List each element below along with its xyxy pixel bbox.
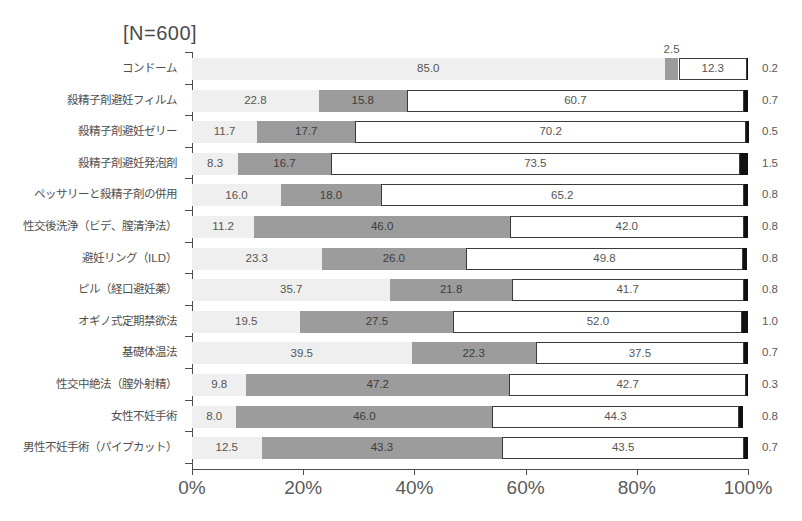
bar-segment-segment-3: 42.7 bbox=[509, 374, 746, 396]
bar-value-label-segment-4: 1.0 bbox=[762, 315, 778, 327]
bar-segment-segment-2: 18.0 bbox=[281, 184, 381, 206]
x-tick-0% bbox=[192, 469, 193, 475]
bar-row: 11.717.770.20.5 bbox=[192, 121, 748, 143]
bar-row: 8.046.044.30.8 bbox=[192, 406, 748, 428]
bar-row: 9.847.242.70.3 bbox=[192, 374, 748, 396]
x-tick-label-100%: 100% bbox=[724, 477, 773, 499]
bar-value-label-segment-4: 0.8 bbox=[762, 252, 778, 264]
category-label-8: オギノ式定期禁欲法 bbox=[78, 316, 177, 328]
y-tick-12 bbox=[185, 431, 192, 432]
y-tick-3 bbox=[185, 147, 192, 148]
x-tick-20% bbox=[303, 469, 304, 475]
bar-value-label-segment-1: 39.5 bbox=[291, 348, 313, 360]
bar-segment-segment-4 bbox=[744, 437, 748, 459]
bar-value-label-segment-2: 43.3 bbox=[371, 442, 393, 454]
bar-segment-segment-1: 35.7 bbox=[192, 279, 390, 301]
bar-value-label-segment-2: 2.5 bbox=[664, 43, 680, 55]
bar-segment-segment-3: 41.7 bbox=[512, 279, 744, 301]
category-label-5: 性交後洗浄（ビデ、膣清浄法） bbox=[23, 221, 177, 233]
bar-segment-segment-2: 21.8 bbox=[390, 279, 511, 301]
category-label-1: 殺精子剤避妊フィルム bbox=[67, 95, 177, 107]
bar-segment-segment-4 bbox=[743, 248, 747, 270]
bar-value-label-segment-1: 19.5 bbox=[235, 316, 257, 328]
bar-value-label-segment-3: 43.5 bbox=[612, 442, 634, 454]
bar-value-label-segment-1: 8.3 bbox=[207, 158, 223, 170]
bar-value-label-segment-4: 0.8 bbox=[762, 220, 778, 232]
bar-segment-segment-1: 9.8 bbox=[192, 374, 246, 396]
category-label-4: ペッサリーと殺精子剤の併用 bbox=[34, 189, 177, 201]
bar-value-label-segment-1: 23.3 bbox=[246, 253, 268, 265]
category-label-9: 基礎体温法 bbox=[122, 347, 177, 359]
plot-area: 0%20%40%60%80%100% 85.02.512.30.222.815.… bbox=[192, 52, 748, 469]
bar-value-label-segment-3: 73.5 bbox=[524, 158, 546, 170]
category-axis-labels: コンドーム殺精子剤避妊フィルム殺精子剤避妊ゼリー殺精子剤避妊発泡剤ペッサリーと殺… bbox=[0, 52, 185, 469]
bar-value-label-segment-3: 42.7 bbox=[616, 379, 638, 391]
bar-segment-segment-4 bbox=[747, 58, 749, 80]
bar-value-label-segment-4: 0.8 bbox=[762, 283, 778, 295]
category-label-7: ピル（経口避妊薬） bbox=[78, 284, 177, 296]
category-label-6: 避妊リング（ILD） bbox=[82, 253, 177, 265]
bar-row: 19.527.552.01.0 bbox=[192, 311, 748, 333]
x-tick-100% bbox=[748, 469, 749, 475]
bar-segment-segment-2: 27.5 bbox=[300, 311, 453, 333]
bar-segment-segment-3: 70.2 bbox=[355, 121, 745, 143]
bar-segment-segment-2: 43.3 bbox=[262, 437, 503, 459]
bar-value-label-segment-4: 0.2 bbox=[762, 62, 778, 74]
bar-value-label-segment-2: 17.7 bbox=[295, 126, 317, 138]
bar-row: 35.721.841.70.8 bbox=[192, 279, 748, 301]
page-title: [N=600] bbox=[123, 22, 197, 45]
bar-value-label-segment-2: 21.8 bbox=[440, 284, 462, 296]
x-tick-label-20%: 20% bbox=[284, 477, 322, 499]
bar-segment-segment-1: 85.0 bbox=[192, 58, 665, 80]
bar-segment-segment-3: 60.7 bbox=[407, 90, 744, 112]
bar-segment-segment-1: 8.3 bbox=[192, 153, 238, 175]
bar-value-label-segment-3: 52.0 bbox=[587, 316, 609, 328]
bar-segment-segment-4 bbox=[739, 406, 743, 428]
bar-value-label-segment-1: 11.7 bbox=[214, 126, 236, 138]
bar-row: 85.02.512.30.2 bbox=[192, 58, 748, 80]
bar-segment-segment-3: 49.8 bbox=[466, 248, 743, 270]
bar-value-label-segment-1: 11.2 bbox=[212, 221, 234, 233]
bar-value-label-segment-4: 0.7 bbox=[762, 346, 778, 358]
y-tick-9 bbox=[185, 336, 192, 337]
bar-segment-segment-2: 26.0 bbox=[322, 248, 467, 270]
bar-value-label-segment-1: 9.8 bbox=[211, 379, 227, 391]
bar-segment-segment-1: 11.2 bbox=[192, 216, 254, 238]
y-tick-5 bbox=[185, 210, 192, 211]
bar-value-label-segment-2: 27.5 bbox=[366, 316, 388, 328]
bar-value-label-segment-3: 65.2 bbox=[551, 190, 573, 202]
bar-value-label-segment-3: 12.3 bbox=[701, 63, 723, 75]
bar-value-label-segment-1: 85.0 bbox=[417, 63, 439, 75]
bar-segment-segment-3: 37.5 bbox=[536, 342, 745, 364]
bar-value-label-segment-2: 47.2 bbox=[367, 379, 389, 391]
bar-value-label-segment-1: 12.5 bbox=[216, 442, 238, 454]
bar-value-label-segment-2: 22.3 bbox=[462, 348, 484, 360]
bar-segment-segment-2: 47.2 bbox=[246, 374, 508, 396]
bar-value-label-segment-1: 35.7 bbox=[280, 284, 302, 296]
bar-value-label-segment-3: 44.3 bbox=[604, 411, 626, 423]
bar-segment-segment-2: 15.8 bbox=[319, 90, 407, 112]
bar-segment-segment-2: 16.7 bbox=[238, 153, 331, 175]
bar-segment-segment-1: 19.5 bbox=[192, 311, 300, 333]
bar-value-label-segment-3: 37.5 bbox=[629, 348, 651, 360]
y-tick-7 bbox=[185, 273, 192, 274]
bar-segment-segment-4 bbox=[744, 90, 748, 112]
x-tick-60% bbox=[526, 469, 527, 475]
y-tick-1 bbox=[185, 84, 192, 85]
bar-value-label-segment-3: 49.8 bbox=[593, 253, 615, 265]
bar-segment-segment-3: 52.0 bbox=[453, 311, 742, 333]
bar-value-label-segment-1: 22.8 bbox=[244, 95, 266, 107]
bar-value-label-segment-3: 70.2 bbox=[539, 126, 561, 138]
bar-value-label-segment-2: 18.0 bbox=[320, 190, 342, 202]
bar-segment-segment-4 bbox=[744, 184, 748, 206]
bar-row: 12.543.343.50.7 bbox=[192, 437, 748, 459]
bar-value-label-segment-3: 42.0 bbox=[616, 221, 638, 233]
x-tick-label-80%: 80% bbox=[618, 477, 656, 499]
category-label-2: 殺精子剤避妊ゼリー bbox=[78, 126, 177, 138]
y-tick-4 bbox=[185, 178, 192, 179]
bar-segment-segment-4 bbox=[744, 342, 748, 364]
bar-value-label-segment-4: 0.7 bbox=[762, 441, 778, 453]
bar-segment-segment-2: 46.0 bbox=[236, 406, 492, 428]
bar-segment-segment-4 bbox=[746, 374, 748, 396]
bar-value-label-segment-4: 0.7 bbox=[762, 94, 778, 106]
